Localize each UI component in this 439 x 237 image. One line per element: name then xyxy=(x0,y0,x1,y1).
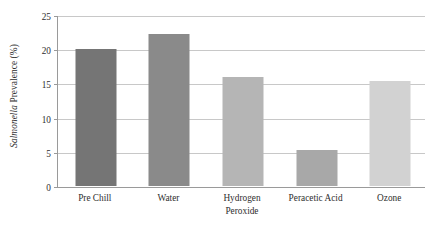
y-tick-20 xyxy=(54,50,58,51)
y-tick-25 xyxy=(54,16,58,17)
y-tick-label-5: 5 xyxy=(46,149,51,159)
bar-slot xyxy=(133,17,207,186)
plot-area: 0510152025 xyxy=(57,17,425,188)
y-axis-title: Salmonella Prevalence (%) xyxy=(9,0,27,196)
bar-pre-chill[interactable] xyxy=(75,49,116,186)
y-tick-5 xyxy=(54,153,58,154)
gridline-0 xyxy=(58,187,425,188)
y-tick-label-25: 25 xyxy=(42,12,51,22)
bar-water[interactable] xyxy=(149,34,190,186)
y-tick-10 xyxy=(54,119,58,120)
x-label-line: Ozone xyxy=(377,193,401,203)
bar-series xyxy=(59,17,425,186)
bar-chart-figure: Salmonella Prevalence (%) 0510152025 Pre… xyxy=(0,0,439,237)
bar-peracetic-acid[interactable] xyxy=(296,150,337,186)
x-label-pre-chill: Pre Chill xyxy=(58,192,132,205)
bar-slot xyxy=(280,17,354,186)
x-label-line: Peroxide xyxy=(205,205,279,218)
bar-ozone[interactable] xyxy=(370,81,411,186)
bar-slot xyxy=(59,17,133,186)
bar-slot xyxy=(206,17,280,186)
x-axis-category-labels: Pre ChillWaterHydrogenPeroxidePeracetic … xyxy=(58,192,425,237)
y-tick-0 xyxy=(54,187,58,188)
x-label-ozone: Ozone xyxy=(352,192,426,205)
x-label-line: Hydrogen xyxy=(223,193,260,203)
y-tick-label-15: 15 xyxy=(42,80,51,90)
bar-slot xyxy=(353,17,427,186)
x-label-line: Peracetic Acid xyxy=(289,193,343,203)
y-tick-label-10: 10 xyxy=(42,115,51,125)
y-tick-label-0: 0 xyxy=(46,183,51,193)
bar-hydrogen-peroxide[interactable] xyxy=(222,77,263,186)
y-tick-label-20: 20 xyxy=(42,46,51,56)
y-tick-15 xyxy=(54,84,58,85)
x-label-line: Pre Chill xyxy=(78,193,111,203)
y-axis-title-rest: Prevalence (%) xyxy=(9,44,19,105)
x-label-peracetic-acid: Peracetic Acid xyxy=(279,192,353,205)
y-axis-title-italic: Salmonella xyxy=(9,105,19,148)
x-label-hydrogen-peroxide: HydrogenPeroxide xyxy=(205,192,279,217)
x-label-water: Water xyxy=(132,192,206,205)
x-label-line: Water xyxy=(157,193,179,203)
